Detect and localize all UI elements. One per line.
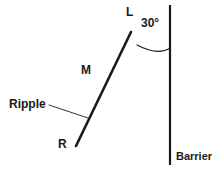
label-angle-30-degrees: 30°: [141, 17, 159, 29]
ripple-line: [76, 32, 131, 146]
label-point-m: M: [81, 64, 91, 76]
ripple-leader-line: [49, 105, 88, 118]
label-point-l: L: [126, 6, 133, 18]
label-point-r: R: [58, 138, 67, 150]
label-barrier: Barrier: [176, 151, 212, 162]
ripple-barrier-diagram: L 30° M Ripple R Barrier: [0, 0, 219, 177]
label-ripple: Ripple: [9, 98, 46, 110]
angle-arc: [137, 45, 170, 51]
